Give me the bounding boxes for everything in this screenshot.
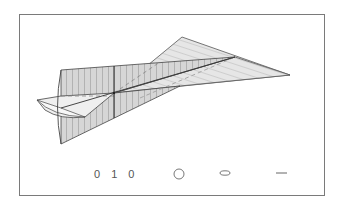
legend-code-label: 0 1 0	[94, 168, 138, 180]
circle-icon	[174, 169, 184, 179]
ellipse-icon	[220, 171, 230, 175]
crossing-point	[113, 92, 115, 94]
diagram-canvas: 0 1 0	[0, 0, 345, 210]
